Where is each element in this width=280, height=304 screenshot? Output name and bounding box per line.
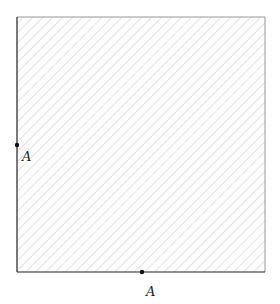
bottom-point (140, 270, 144, 274)
hatched-region (17, 17, 265, 272)
left-point-label: A (22, 149, 31, 164)
square-region-diagram (0, 0, 280, 304)
left-point (15, 143, 19, 147)
bottom-point-label: A (146, 284, 155, 299)
